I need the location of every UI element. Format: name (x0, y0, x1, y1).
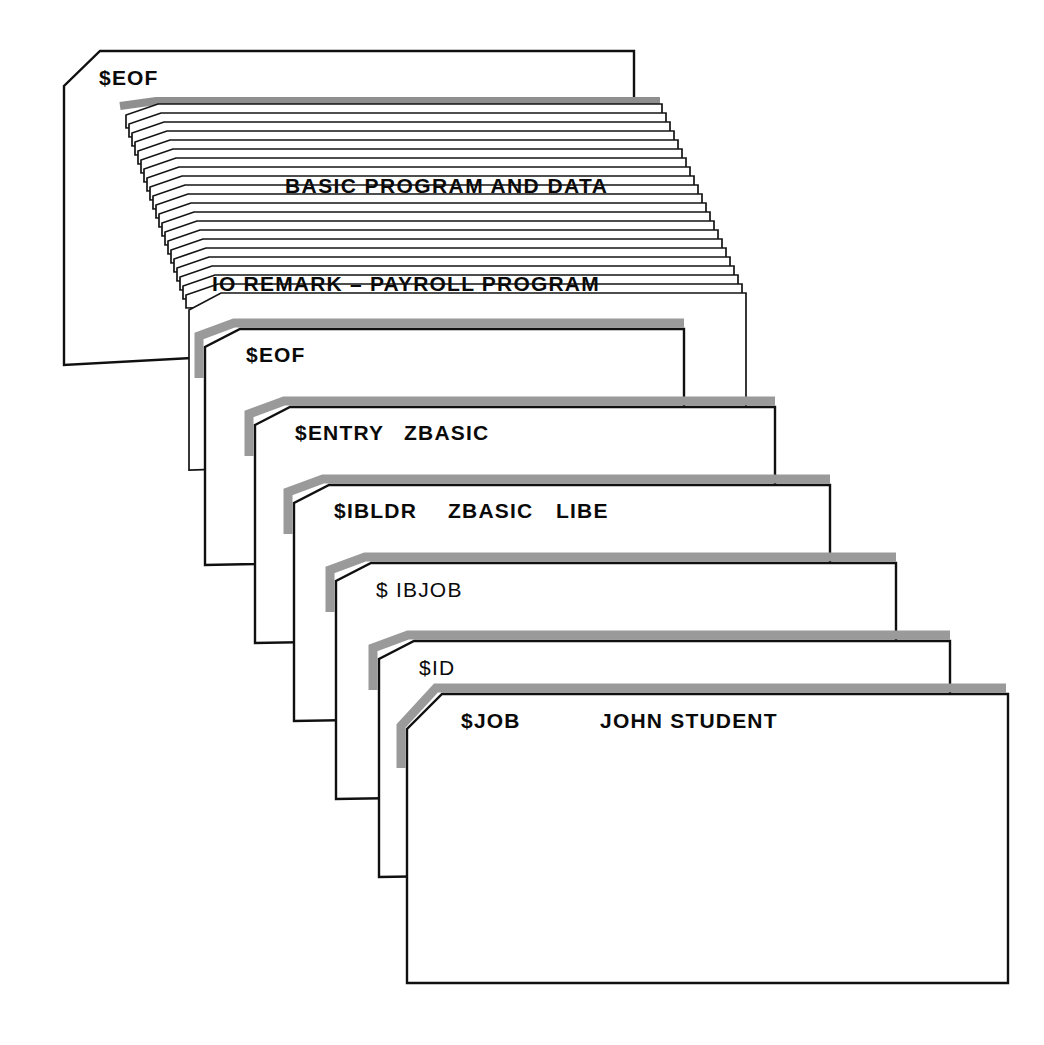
deck-illustration: $EOF (0, 0, 1044, 1045)
card-entry-operand: ZBASIC (404, 421, 489, 444)
card-job-verb: $JOB (461, 709, 521, 732)
card-eof-top-label: $EOF (99, 66, 159, 89)
punch-card-deck-figure: $EOF (0, 0, 1044, 1045)
card-remark-label: IO REMARK – PAYROLL PROGRAM (212, 272, 600, 295)
card-ibldr-operand-1: ZBASIC (448, 499, 533, 522)
card-ibjob-verb: $ IBJOB (376, 578, 463, 601)
card-job-outline (407, 694, 1008, 983)
card-id-verb: $ID (419, 656, 455, 679)
card-ibldr-verb: $IBLDR (334, 499, 417, 522)
card-entry-verb: $ENTRY (295, 421, 384, 444)
card-job: $JOB JOHN STUDENT (401, 688, 1008, 983)
stack-label-basic-program: BASIC PROGRAM AND DATA (285, 174, 608, 197)
card-job-operand: JOHN STUDENT (600, 709, 778, 732)
card-eof-second-label: $EOF (246, 343, 306, 366)
card-ibldr-operand-2: LIBE (556, 499, 609, 522)
